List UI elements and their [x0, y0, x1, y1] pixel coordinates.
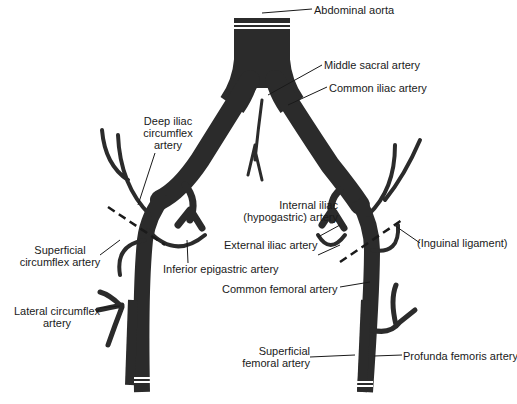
label-internal-iliac-artery: Internal iliac (hypogastric) artery [220, 199, 338, 223]
label-inguinal-ligament: (Inguinal ligament) [417, 237, 508, 249]
label-inferior-epigastric-artery: Inferior epigastric artery [163, 263, 279, 275]
label-common-iliac-artery: Common iliac artery [329, 82, 427, 94]
arterial-diagram: Abdominal aorta Middle sacral artery Com… [0, 0, 517, 404]
label-external-iliac-artery: External iliac artery [224, 239, 318, 251]
label-profunda-femoris-artery: Profunda femoris artery [403, 350, 517, 362]
label-lateral-circumflex-artery: Lateral circumflex artery [12, 305, 102, 329]
label-deep-iliac-circumflex-artery: Deep iliac circumflex artery [128, 115, 208, 151]
label-middle-sacral-artery: Middle sacral artery [324, 59, 420, 71]
label-common-femoral-artery: Common femoral artery [222, 283, 338, 295]
label-superficial-circumflex-artery: Superficial circumflex artery [15, 244, 105, 268]
label-abdominal-aorta: Abdominal aorta [314, 4, 394, 16]
label-superficial-femoral-artery: Superficial femoral artery [225, 345, 310, 369]
